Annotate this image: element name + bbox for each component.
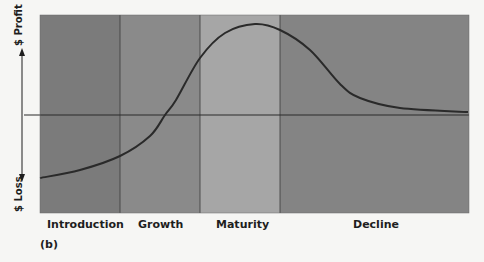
profit-axis-label: $ Profit — [13, 4, 24, 46]
stage-label-maturity: Maturity — [216, 218, 269, 231]
stage-label-decline: Decline — [353, 218, 399, 231]
loss-axis-label: $ Loss — [13, 176, 24, 212]
stage-label-introduction: Introduction — [47, 218, 124, 231]
arrow-up-icon — [19, 48, 25, 56]
stage-band-growth — [120, 15, 200, 213]
stage-band-introduction — [40, 15, 120, 213]
stage-label-growth: Growth — [138, 218, 183, 231]
stage-band-decline — [280, 15, 469, 213]
stage-bands — [40, 15, 469, 213]
figure-label: (b) — [40, 238, 58, 251]
